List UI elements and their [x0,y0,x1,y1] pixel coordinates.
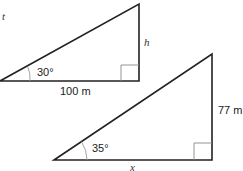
diagram-canvas: 30° 100 m h t 35° 77 m x [0,0,243,171]
angle-arc [28,67,30,82]
right-angle-marker [194,143,212,160]
angle-label: 30° [37,66,54,78]
corner-label: t [2,10,6,22]
triangle-1-outline [0,4,139,81]
triangle-2: 35° 77 m x [54,54,242,171]
base-label: x [129,161,135,171]
angle-arc [81,142,87,160]
height-label: h [144,36,150,48]
triangle-1: 30° 100 m h t [0,4,150,97]
triangle-2-outline [54,54,212,160]
base-label: 100 m [60,85,91,97]
height-label: 77 m [218,104,242,116]
right-angle-marker [121,65,139,81]
angle-label: 35° [92,142,109,154]
